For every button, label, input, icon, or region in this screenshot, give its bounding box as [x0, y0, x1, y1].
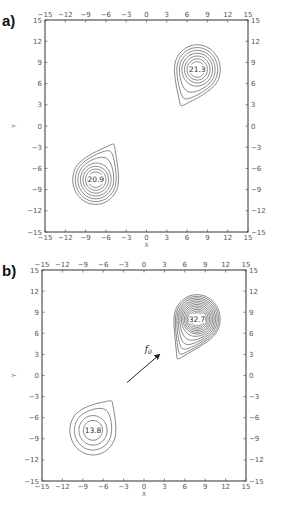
y-tick-label-right: −12: [251, 207, 266, 215]
y-tick-label-left: 12: [33, 38, 42, 46]
y-tick-label-left: −6: [29, 414, 40, 422]
x-tick-label-top: 12: [223, 11, 232, 19]
y-tick-label-left: 6: [38, 80, 43, 88]
x-tick-label-top: −12: [55, 261, 70, 269]
y-tick-label-right: 12: [251, 38, 260, 46]
y-tick-label-left: −6: [32, 165, 43, 173]
y-tick-label-left: 15: [33, 17, 42, 25]
contour-peak: 21.3: [175, 45, 221, 106]
peak-value-label: 20.9: [87, 175, 104, 184]
y-tick-label-right: −9: [249, 435, 259, 443]
x-tick-label-bottom: −12: [58, 234, 73, 242]
y-tick-label-right: 3: [249, 351, 253, 359]
x-tick-label-top: −9: [78, 261, 88, 269]
y-tick-label-right: 6: [251, 80, 256, 88]
y-tick-label-right: −6: [251, 165, 262, 173]
x-tick-label-top: −3: [118, 261, 128, 269]
x-tick-label-bottom: 15: [244, 234, 253, 242]
x-tick-label-bottom: −6: [101, 234, 112, 242]
y-tick-label-right: −3: [251, 144, 261, 152]
y-tick-label-left: −3: [29, 393, 39, 401]
x-tick-label-top: 3: [162, 261, 166, 269]
y-tick-label-left: 12: [30, 288, 39, 296]
y-tick-label-left: 0: [38, 123, 42, 131]
x-tick-label-top: 6: [185, 11, 190, 19]
y-tick-label-left: 3: [35, 351, 39, 359]
x-tick-label-top: −3: [121, 11, 131, 19]
x-axis-label: X: [142, 490, 146, 497]
x-tick-label-top: 3: [165, 11, 169, 19]
figure-canvas: a)−15−15−15−15−12−12−12−12−9−9−9−9−6−6−6…: [0, 0, 281, 513]
y-tick-label-right: 12: [249, 288, 258, 296]
x-tick-label-bottom: −9: [80, 234, 90, 242]
arrow-label: f0: [144, 344, 152, 355]
x-tick-label-bottom: −3: [121, 234, 131, 242]
y-tick-label-left: −12: [27, 207, 42, 215]
x-tick-label-top: 9: [205, 11, 209, 19]
x-tick-label-top: 9: [203, 261, 207, 269]
x-tick-label-bottom: 6: [185, 234, 190, 242]
y-tick-label-right: −15: [251, 229, 266, 237]
x-tick-label-top: 0: [144, 11, 148, 19]
x-tick-label-top: 6: [183, 261, 188, 269]
y-tick-label-left: −9: [29, 435, 39, 443]
x-tick-label-bottom: 3: [165, 234, 169, 242]
y-tick-label-right: 15: [249, 267, 258, 275]
y-tick-label-right: 9: [249, 309, 253, 317]
y-tick-label-left: −3: [32, 144, 42, 152]
plot-frame: [45, 20, 248, 232]
y-tick-label-left: 15: [30, 267, 39, 275]
y-tick-label-right: 9: [251, 59, 255, 67]
peak-value-label: 32.7: [189, 315, 206, 324]
y-tick-label-left: −15: [24, 478, 39, 486]
y-tick-label-right: 15: [251, 17, 260, 25]
y-tick-label-left: 9: [38, 59, 42, 67]
y-axis-label: Y: [10, 373, 17, 378]
y-tick-label-right: −15: [249, 478, 264, 486]
y-tick-label-right: 0: [249, 372, 253, 380]
y-tick-label-right: −9: [251, 186, 261, 194]
plot-frame: [42, 270, 246, 481]
x-tick-label-bottom: 9: [205, 234, 209, 242]
y-tick-label-right: −12: [249, 456, 264, 464]
y-tick-label-right: 0: [251, 123, 255, 131]
contour-peak: 32.7: [174, 295, 220, 359]
y-tick-label-left: −12: [24, 456, 39, 464]
contour-plot-a: a)−15−15−15−15−12−12−12−12−9−9−9−9−6−6−6…: [2, 11, 266, 248]
peak-value-label: 13.8: [85, 426, 102, 435]
y-axis-label: Y: [10, 124, 17, 129]
peak-value-label: 21.3: [189, 65, 206, 74]
x-tick-label-top: −9: [80, 11, 90, 19]
y-tick-label-left: 3: [38, 101, 42, 109]
contour-peak: 13.8: [70, 401, 116, 455]
x-tick-label-bottom: 15: [242, 483, 251, 491]
y-tick-label-right: −3: [249, 393, 259, 401]
y-tick-label-left: −15: [27, 229, 42, 237]
x-tick-label-bottom: −9: [78, 483, 88, 491]
contour-line: [175, 45, 221, 106]
x-tick-label-bottom: −12: [55, 483, 70, 491]
panel-label: b): [2, 262, 16, 279]
y-tick-label-right: 6: [249, 330, 254, 338]
x-tick-label-bottom: −6: [98, 483, 109, 491]
x-tick-label-bottom: 3: [162, 483, 166, 491]
y-tick-label-right: 3: [251, 101, 255, 109]
x-tick-label-top: −12: [58, 11, 73, 19]
x-tick-label-top: −6: [101, 11, 112, 19]
y-tick-label-right: −6: [249, 414, 260, 422]
contour-plot-b: b)−15−15−15−15−12−12−12−12−9−9−9−9−6−6−6…: [2, 261, 264, 497]
x-tick-label-top: 12: [221, 261, 230, 269]
x-tick-label-bottom: −3: [118, 483, 128, 491]
x-tick-label-top: 0: [142, 261, 146, 269]
y-tick-label-left: 0: [35, 372, 39, 380]
arrow-annotation: [127, 354, 160, 382]
x-tick-label-bottom: 12: [223, 234, 232, 242]
y-tick-label-left: −9: [32, 186, 42, 194]
panel-label: a): [2, 12, 15, 29]
x-axis-label: X: [144, 241, 148, 248]
contour-peak: 20.9: [73, 144, 119, 204]
x-tick-label-bottom: 12: [221, 483, 230, 491]
y-tick-label-left: 6: [35, 330, 40, 338]
x-tick-label-bottom: 6: [183, 483, 188, 491]
y-tick-label-left: 9: [35, 309, 39, 317]
